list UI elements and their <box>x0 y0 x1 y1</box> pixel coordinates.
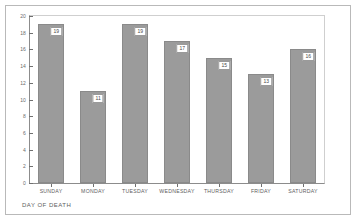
x-axis-category-label: WEDNESDAY <box>159 187 194 195</box>
y-axis-tick-label: 18 <box>20 30 26 36</box>
x-axis-category-label: TUESDAY <box>122 187 148 195</box>
y-axis-tick-label: 2 <box>23 163 26 169</box>
x-axis-category-label: SATURDAY <box>288 187 317 195</box>
y-axis-tick-label: 6 <box>23 130 26 136</box>
bar <box>248 74 274 183</box>
bar-value-label: 19 <box>50 27 62 36</box>
bar <box>290 49 316 183</box>
bar-value-label: 19 <box>134 27 146 36</box>
x-axis-category-label: THURSDAY <box>204 187 234 195</box>
y-axis-tick-label: 12 <box>20 80 26 86</box>
bar <box>164 41 190 183</box>
y-axis-tick-label: 10 <box>20 97 26 103</box>
y-axis-labels: 02468101214161820 <box>8 15 26 184</box>
bar <box>80 91 106 183</box>
bar <box>38 24 64 183</box>
y-axis-tick-label: 0 <box>23 180 26 186</box>
y-axis-tick-label: 16 <box>20 46 26 52</box>
y-axis-tick-label: 4 <box>23 147 26 153</box>
bar <box>122 24 148 183</box>
bar-value-label: 15 <box>218 61 230 70</box>
y-axis-tick-label: 14 <box>20 63 26 69</box>
x-axis-category-label: SUNDAY <box>40 187 63 195</box>
plot-area: 19111917151316 <box>30 16 324 183</box>
bar <box>206 58 232 183</box>
y-axis-tick-label: 20 <box>20 13 26 19</box>
bar-value-label: 16 <box>302 52 314 61</box>
y-axis-tick-label: 8 <box>23 113 26 119</box>
x-axis-category-label: FRIDAY <box>251 187 271 195</box>
x-axis-category-label: MONDAY <box>81 187 105 195</box>
bar-value-label: 13 <box>260 77 272 86</box>
bar-chart-figure: 02468101214161820 19111917151316 SUNDAYM… <box>0 0 357 222</box>
bar-value-label: 17 <box>176 44 188 53</box>
x-axis-title: DAY OF DEATH <box>22 202 71 208</box>
bar-value-label: 11 <box>93 94 104 103</box>
x-axis-labels: SUNDAYMONDAYTUESDAYWEDNESDAYTHURSDAYFRID… <box>30 187 324 197</box>
